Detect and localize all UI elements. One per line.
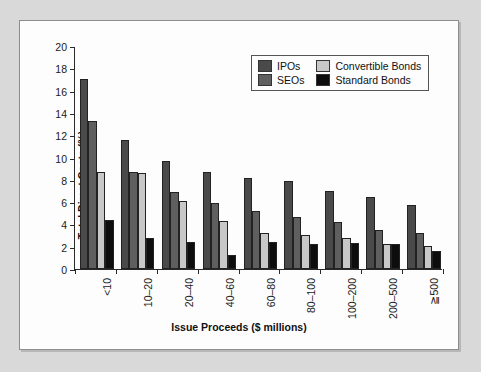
y-tick-mark <box>70 181 75 182</box>
y-tick-label: 10 <box>55 153 67 164</box>
bar <box>342 238 350 269</box>
y-tick-label: 4 <box>61 220 67 231</box>
bar <box>219 221 227 269</box>
bar <box>260 233 268 269</box>
x-category-label: 40–60 <box>225 278 236 307</box>
bar <box>203 172 211 269</box>
y-tick-label: 20 <box>55 42 67 53</box>
y-tick-label: 14 <box>55 109 67 120</box>
y-tick-mark <box>70 92 75 93</box>
x-category-label: 100–200 <box>347 278 358 319</box>
x-tick-mark <box>279 269 280 274</box>
bar <box>170 192 178 269</box>
bar <box>179 201 187 269</box>
y-tick-mark <box>70 114 75 115</box>
bar <box>80 79 88 269</box>
bar <box>211 203 219 269</box>
y-tick-mark <box>70 248 75 249</box>
y-tick-label: 16 <box>55 86 67 97</box>
y-tick-label: 8 <box>61 176 67 187</box>
x-tick-mark <box>157 269 158 274</box>
legend-item: IPOs <box>258 60 304 72</box>
x-category-label: 60–80 <box>266 278 277 307</box>
x-category-label: 10–20 <box>143 278 154 307</box>
bar <box>162 161 170 269</box>
bar <box>293 217 301 269</box>
legend-item: Convertible Bonds <box>316 60 421 72</box>
x-tick-mark <box>75 269 76 274</box>
legend-item: Standard Bonds <box>316 74 421 86</box>
y-tick-mark <box>70 69 75 70</box>
bar <box>366 197 374 269</box>
legend-swatch-icon <box>258 60 272 72</box>
bar <box>187 242 195 269</box>
legend-label: SEOs <box>277 75 304 86</box>
x-tick-mark <box>239 269 240 274</box>
bar-group <box>203 47 237 269</box>
bar <box>351 243 359 269</box>
bar-group <box>162 47 196 269</box>
bar <box>138 173 146 269</box>
x-category-label: 20–40 <box>184 278 195 307</box>
x-tick-mark <box>116 269 117 274</box>
chart-legend: IPOsConvertible BondsSEOsStandard Bonds <box>251 55 429 91</box>
y-tick-mark <box>70 136 75 137</box>
legend-label: IPOs <box>277 61 300 72</box>
bar <box>325 191 333 269</box>
legend-swatch-icon <box>316 74 330 86</box>
y-tick-label: 6 <box>61 198 67 209</box>
bar <box>334 222 342 269</box>
y-tick-label: 18 <box>55 64 67 75</box>
x-category-label: ≧500 <box>429 278 440 305</box>
bar <box>432 251 440 269</box>
bar <box>416 233 424 269</box>
bar <box>228 255 236 269</box>
bar-group <box>121 47 155 269</box>
x-category-label: <10 <box>102 278 113 296</box>
x-tick-mark <box>198 269 199 274</box>
x-tick-mark <box>320 269 321 274</box>
bar <box>284 181 292 269</box>
bar <box>269 242 277 269</box>
y-tick-label: 12 <box>55 131 67 142</box>
bar <box>252 211 260 269</box>
legend-item: SEOs <box>258 74 304 86</box>
x-category-label: 200–500 <box>388 278 399 319</box>
legend-label: Standard Bonds <box>335 75 410 86</box>
bar <box>375 230 383 269</box>
x-tick-mark <box>361 269 362 274</box>
bar <box>310 244 318 269</box>
x-category-label: 80–100 <box>306 278 317 313</box>
figure-panel: Total Direct Costs (%) 20181614121086420… <box>19 20 459 350</box>
y-tick-label: 0 <box>61 265 67 276</box>
bar <box>97 172 105 269</box>
bar <box>105 220 113 269</box>
bar <box>88 121 96 269</box>
y-tick-mark <box>70 159 75 160</box>
bar <box>407 205 415 269</box>
bar <box>244 178 252 269</box>
bar <box>146 238 154 269</box>
y-tick-mark <box>70 47 75 48</box>
bar <box>129 172 137 269</box>
x-axis-title: Issue Proceeds ($ millions) <box>20 321 458 333</box>
bar-group <box>80 47 114 269</box>
bar <box>301 235 309 269</box>
bar <box>383 244 391 269</box>
bar <box>121 140 129 269</box>
y-tick-mark <box>70 225 75 226</box>
legend-swatch-icon <box>258 74 272 86</box>
x-tick-mark <box>402 269 403 274</box>
bar <box>391 244 399 269</box>
legend-label: Convertible Bonds <box>335 61 421 72</box>
bar <box>424 246 432 269</box>
y-tick-label: 2 <box>61 242 67 253</box>
x-tick-mark <box>443 269 444 274</box>
y-tick-mark <box>70 203 75 204</box>
legend-swatch-icon <box>316 60 330 72</box>
